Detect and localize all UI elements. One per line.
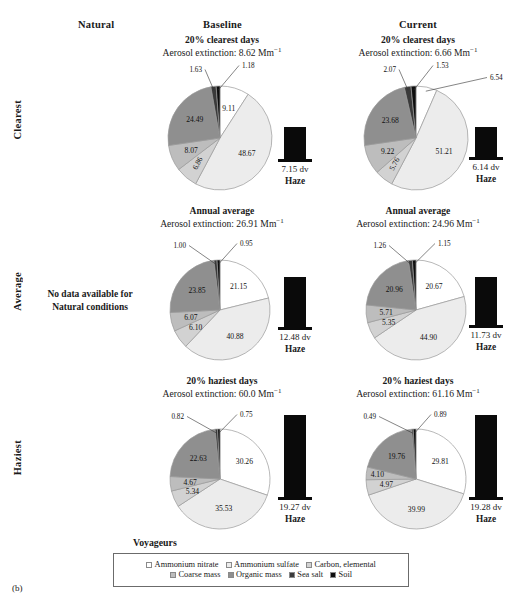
legend-swatch-icon [330,572,336,578]
panel-title: 20% haziest days [348,375,488,386]
legend-item: Sea salt [289,570,323,580]
haze-bar-baseline-average: 12.48 dvHaze [272,277,318,357]
haze-bar-base [278,497,312,500]
legend-swatch-icon [289,572,295,578]
haze-value-label: 12.48 dv [272,332,318,342]
slice-value-label: 1.63 [189,66,202,74]
slice-value-label: 2.07 [383,66,396,74]
legend-title: Voyageurs [133,537,177,548]
panel-subtitle-extinction: Aerosol extinction: 26.91 Mm−1 [152,217,292,229]
slice-value-label: 6.10 [189,323,202,332]
legend-item-label: Soil [339,570,353,580]
panel-title: 20% clearest days [348,34,488,45]
leader-line [189,246,216,265]
slice-value-label: 6.07 [184,313,197,322]
slice-value-label: 22.63 [190,454,207,463]
panel-subtitle-extinction: Aerosol extinction: 61.16 Mm−1 [348,387,488,399]
slice-value-label: 29.81 [432,457,449,466]
no-data-line: No data available for [30,288,150,301]
slice-value-label: 0.95 [240,240,253,248]
slice-value-label: 48.67 [238,149,255,158]
slice-value-label: 39.99 [408,505,425,514]
slice-value-label: 23.85 [188,286,205,295]
legend-row-bottom: Coarse massOrganic massSea saltSoil [114,570,408,580]
slice-value-label: 1.00 [173,242,186,250]
slice-value-label: 19.76 [388,452,405,461]
panel-title: 20% haziest days [152,375,292,386]
legend-item: Carbon, elemental [306,560,376,570]
haze-bar-base [278,159,312,162]
legend-item-label: Organic mass [236,570,282,580]
panel-subtitle-extinction: Aerosol extinction: 60.0 Mm−1 [152,387,292,399]
slice-value-label: 30.26 [236,457,253,466]
haze-bar-column [475,127,497,157]
column-header-natural: Natural [78,19,114,30]
no-data-line: Natural conditions [30,301,150,314]
legend-swatch-icon [146,562,152,568]
slice-value-label: 35.53 [215,504,232,513]
slice-value-label: 21.15 [230,282,247,291]
haze-caption: Haze [463,514,509,524]
haze-value-label: 19.27 dv [272,502,318,512]
haze-caption: Haze [463,342,509,352]
haze-bar-current-haziest: 19.28 dvHaze [463,415,509,527]
panel-subtitle-extinction: Aerosol extinction: 8.62 Mm−1 [152,46,292,58]
haze-bar-baseline-haziest: 19.27 dvHaze [272,415,318,527]
slice-value-label: 51.21 [436,147,453,156]
figure-canvas: Natural Baseline Current Clearest Averag… [0,0,526,611]
leader-line [187,417,217,434]
slice-value-label: 1.53 [436,62,449,70]
slice-value-label: 1.18 [242,62,255,70]
haze-bar-column [284,127,306,159]
legend-item: Soil [330,570,352,580]
haze-bar-base [469,157,503,160]
slice-value-label: 4.10 [371,470,384,479]
row-header-haziest: Haziest [12,440,23,475]
row-header-average: Average [12,272,23,311]
haze-value-label: 7.15 dv [272,164,318,174]
slice-value-label: 0.49 [363,413,376,421]
legend-item-label: Sea salt [297,570,323,580]
haze-bar-column [284,415,306,497]
no-data-note: No data available forNatural conditions [30,288,150,314]
legend-item: Ammonium sulfate [226,560,299,570]
legend-item: Organic mass [228,570,282,580]
haze-bar-current-clearest: 6.14 dvHaze [463,127,509,187]
pie-chart-baseline-clearest: 9.1148.676.868.0724.491.631.18 [152,60,292,198]
panel-subtitle-extinction: Aerosol extinction: 24.96 Mm−1 [348,217,488,229]
legend-item: Coarse mass [170,570,221,580]
legend-item-label: Ammonium sulfate [234,560,299,570]
slice-value-label: 1.26 [373,242,386,250]
haze-caption: Haze [272,514,318,524]
legend-swatch-icon [170,572,176,578]
legend-row-top: Ammonium nitrateAmmonium sulfateCarbon, … [114,560,408,570]
legend-swatch-icon [226,562,232,568]
slice-value-label: 24.49 [186,115,203,124]
panel-subtitle-extinction: Aerosol extinction: 6.66 Mm−1 [348,46,488,58]
legend-item-label: Carbon, elemental [314,560,375,570]
legend-item: Ammonium nitrate [146,560,218,570]
slice-value-label: 9.11 [222,104,235,113]
legend-swatch-icon [306,562,312,568]
slice-value-label: 4.67 [183,478,196,487]
haze-value-label: 19.28 dv [463,502,509,512]
slice-value-label: 0.89 [434,411,447,419]
haze-bar-current-average: 11.73 dvHaze [463,277,509,355]
slice-value-label: 0.82 [171,413,184,421]
slice-value-label: 5.35 [382,318,395,327]
legend-item-label: Ammonium nitrate [155,560,219,570]
leader-line [426,78,487,92]
column-header-current: Current [399,19,437,30]
slice-value-label: 20.67 [426,282,443,291]
figure-caption: (b) [12,583,23,593]
haze-value-label: 11.73 dv [463,330,509,340]
haze-caption: Haze [463,174,509,184]
legend-box: Ammonium nitrateAmmonium sulfateCarbon, … [113,553,409,587]
slice-value-label: 23.68 [382,116,399,125]
slice-value-label: 0.75 [240,411,253,419]
haze-value-label: 6.14 dv [463,162,509,172]
slice-value-label: 5.71 [379,308,392,317]
panel-title: Annual average [348,205,488,216]
panel-title: Annual average [152,205,292,216]
legend-swatch-icon [228,572,234,578]
